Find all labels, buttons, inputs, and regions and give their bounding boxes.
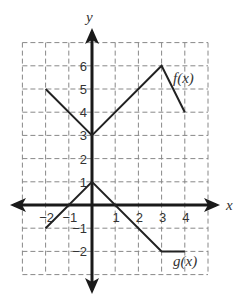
y-axis-label: y <box>84 9 93 25</box>
g-label: g(x) <box>173 253 197 270</box>
coordinate-graph: −2−11234654321−1−2 x y f(x) g(x) <box>0 0 245 301</box>
x-tick-label: 2 <box>136 210 143 225</box>
y-tick-label: 6 <box>80 59 87 74</box>
x-tick-label: 4 <box>182 210 189 225</box>
f-label: f(x) <box>173 70 194 87</box>
x-tick-label: 1 <box>113 210 120 225</box>
y-tick-label: 2 <box>80 152 87 167</box>
x-tick-label: 3 <box>159 210 166 225</box>
x-axis-label: x <box>225 197 233 213</box>
y-tick-label: −2 <box>72 244 87 259</box>
y-tick-label: 5 <box>80 82 87 97</box>
y-tick-label: 4 <box>80 105 87 120</box>
y-tick-label: −1 <box>72 221 87 236</box>
